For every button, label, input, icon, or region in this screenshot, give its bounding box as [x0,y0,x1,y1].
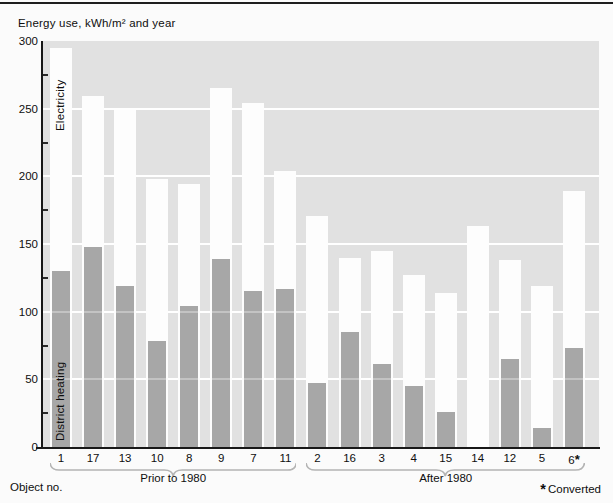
object-no-label: Object no. [10,481,62,493]
gridline-overlay-100 [43,311,599,313]
y-minor-tick-225 [43,142,48,144]
y-minor-tick-25 [43,412,48,414]
gridline-overlay-250 [43,108,599,110]
y-tick-label-100: 100 [6,306,38,318]
converted-footnote: *Converted [540,481,601,497]
bar-district-heating-5 [533,428,551,447]
y-axis-line [41,41,43,449]
bar-district-heating-15 [437,412,455,447]
y-tick-label-200: 200 [6,170,38,182]
y-minor-tick-75 [43,345,48,347]
electricity-series-label: Electricity [54,80,66,131]
x-axis-line [36,447,600,449]
gridline-overlay-150 [43,243,599,245]
gridline-overlay-50 [43,378,599,380]
y-tick-label-0: 0 [6,441,38,453]
y-minor-tick-175 [43,209,48,211]
bar-district-heating-4 [405,386,423,447]
bar-district-heating-8 [180,306,198,447]
bar-electricity-14 [467,226,489,447]
y-tick-label-150: 150 [6,238,38,250]
bar-district-heating-12 [501,359,519,447]
group-label-1: Prior to 1980 [140,472,206,484]
y-tick-label-50: 50 [6,373,38,385]
district-heating-series-label: District heating [54,362,66,441]
bar-district-heating-9 [212,259,230,447]
bar-district-heating-2 [308,383,326,447]
bar-district-heating-7 [244,291,262,447]
y-tick-label-250: 250 [6,103,38,115]
bar-district-heating-6 [565,348,583,447]
converted-footnote-text: Converted [548,483,601,495]
gridline-overlay-200 [43,175,599,177]
y-minor-tick-275 [43,74,48,76]
group-label-2: After 1980 [419,472,472,484]
top-rule [0,2,613,4]
y-tick-label-300: 300 [6,35,38,47]
chart-title: Energy use, kWh/m² and year [18,17,176,29]
bar-district-heating-16 [341,332,359,447]
bar-district-heating-10 [148,341,166,447]
asterisk-icon: * [540,481,546,497]
bar-district-heating-3 [373,364,391,447]
y-minor-tick-125 [43,277,48,279]
bar-district-heating-17 [84,247,102,447]
